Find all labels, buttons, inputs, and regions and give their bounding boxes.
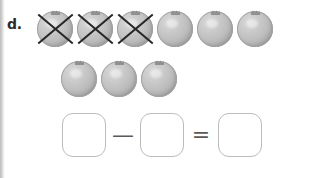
ball-fruit-icon[interactable]: [155, 8, 195, 50]
worksheet-problem-d: d.: [0, 0, 309, 178]
ball-body: [141, 61, 177, 97]
subtraction-equation: — =: [62, 113, 262, 157]
ball-fruit-icon[interactable]: [99, 58, 139, 100]
object-row-2: [59, 58, 179, 100]
ball-fruit-icon[interactable]: [195, 8, 235, 50]
subtrahend-answer-box[interactable]: [140, 113, 184, 157]
ball-highlight: [166, 19, 178, 28]
ball-fruit-icon[interactable]: [75, 8, 115, 50]
minuend-answer-box[interactable]: [62, 113, 106, 157]
ball-highlight: [206, 19, 218, 28]
scan-edge-artifact: [0, 0, 5, 178]
ball-highlight: [70, 69, 82, 78]
equals-operator: =: [184, 124, 218, 146]
minus-operator: —: [106, 124, 140, 146]
difference-answer-box[interactable]: [218, 113, 262, 157]
ball-fruit-icon[interactable]: [139, 58, 179, 100]
problem-label: d.: [7, 16, 22, 32]
ball-highlight: [110, 69, 122, 78]
ball-highlight: [246, 19, 258, 28]
ball-highlight: [150, 69, 162, 78]
ball-body: [101, 61, 137, 97]
ball-body: [157, 11, 193, 47]
ball-body: [197, 11, 233, 47]
ball-fruit-icon[interactable]: [35, 8, 75, 50]
ball-fruit-icon[interactable]: [59, 58, 99, 100]
object-row-1: [35, 8, 275, 50]
ball-body: [61, 61, 97, 97]
ball-fruit-icon[interactable]: [115, 8, 155, 50]
ball-fruit-icon[interactable]: [235, 8, 275, 50]
ball-body: [237, 11, 273, 47]
